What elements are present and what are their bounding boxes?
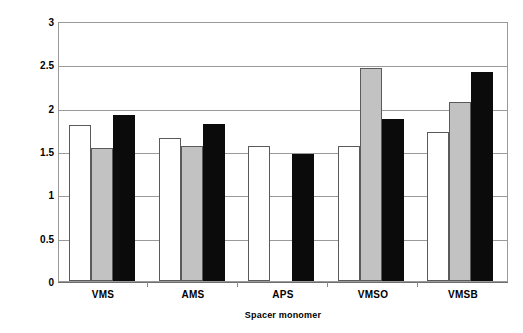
x-axis-title: Spacer monomer: [58, 310, 508, 320]
x-axis-tick: [148, 282, 238, 288]
x-axis-ticks: [58, 282, 508, 288]
bar-slot: [471, 23, 493, 281]
bar-group-pad: [417, 280, 427, 281]
bar: [382, 119, 404, 281]
x-axis-tick: [418, 282, 508, 288]
bar-group: [417, 23, 507, 281]
bar-group-pad: [59, 280, 69, 281]
bar-slot: [382, 23, 404, 281]
y-axis-tick-label: 2.5: [20, 60, 54, 71]
bar: [292, 154, 314, 281]
bar: [338, 146, 360, 281]
bar-group: [328, 23, 418, 281]
bar-group-pad: [238, 280, 248, 281]
bar: [471, 72, 493, 281]
bar: [181, 146, 203, 281]
plot-area: [58, 22, 508, 282]
bar-slot: [248, 23, 270, 281]
bar-group-pad: [328, 280, 338, 281]
bar: [360, 68, 382, 281]
bar: [91, 148, 113, 281]
bar-slot: [449, 23, 471, 281]
y-axis-tick-label: 1.5: [20, 147, 54, 158]
bar-slot: [159, 23, 181, 281]
x-axis-tick-label: VMS: [58, 289, 148, 305]
bar: [203, 124, 225, 281]
bar-slot: [181, 23, 203, 281]
x-axis-tick: [328, 282, 418, 288]
y-axis-tick-label: 0.5: [20, 233, 54, 244]
y-axis-tick-labels: 00.511.522.53: [20, 0, 54, 333]
x-axis-tick: [238, 282, 328, 288]
bars-layer: [59, 23, 507, 281]
bar-group: [238, 23, 328, 281]
bar-slot: [69, 23, 91, 281]
bar-slot: [270, 23, 292, 281]
y-axis-tick-label: 0: [20, 277, 54, 288]
bar-group-pad: [149, 280, 159, 281]
x-axis-tick-label: VMSO: [328, 289, 418, 305]
bar: [248, 146, 270, 281]
bar-slot: [338, 23, 360, 281]
bar-slot: [203, 23, 225, 281]
x-axis-tick-label: VMSB: [418, 289, 508, 305]
bar-slot: [113, 23, 135, 281]
bar: [427, 132, 449, 281]
x-axis-tick-label: AMS: [148, 289, 238, 305]
bar-group: [149, 23, 239, 281]
bar: [449, 102, 471, 281]
bar: [69, 125, 91, 281]
bar-slot: [292, 23, 314, 281]
y-axis-tick-label: 2: [20, 103, 54, 114]
x-axis-tick-label: APS: [238, 289, 328, 305]
bar-chart: Mesh size (nm) 00.511.522.53 VMSAMSAPSVM…: [0, 0, 523, 333]
x-axis-tick: [58, 282, 148, 288]
bar-group: [59, 23, 149, 281]
y-axis-tick-label: 3: [20, 17, 54, 28]
bar-slot: [427, 23, 449, 281]
y-axis-tick-label: 1: [20, 190, 54, 201]
bar-slot: [360, 23, 382, 281]
bar: [159, 138, 181, 281]
bar-slot: [91, 23, 113, 281]
x-axis-tick-labels: VMSAMSAPSVMSOVMSB: [58, 289, 508, 305]
bar: [113, 115, 135, 281]
